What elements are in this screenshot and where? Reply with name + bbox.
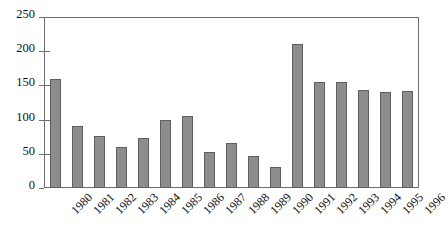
y-axis-tick-label: 50 (23, 145, 36, 158)
x-axis-tick-label: 1989 (268, 191, 293, 216)
x-axis-tick-label: 1991 (312, 191, 337, 216)
x-axis-tick-label: 1990 (290, 191, 315, 216)
y-axis-tick-label: 200 (16, 42, 35, 55)
x-axis-tick-label: 1996 (422, 191, 447, 216)
y-axis-tick-label: 100 (16, 111, 35, 124)
bar (182, 116, 193, 188)
x-axis-tick-label: 1988 (246, 191, 271, 216)
x-axis-tick-label: 1982 (113, 191, 138, 216)
bar (50, 79, 61, 188)
y-axis: 050100150200250 (0, 17, 44, 189)
bar (116, 147, 127, 188)
bar (380, 92, 391, 188)
x-axis: 1980198119821983198419851986198719881989… (44, 189, 419, 231)
bar (204, 152, 215, 188)
x-axis-tick-label: 1992 (334, 191, 359, 216)
x-axis-tick-label: 1983 (135, 191, 160, 216)
bar (248, 156, 259, 188)
bar (314, 82, 325, 188)
bars-layer (44, 17, 419, 188)
bar (138, 138, 149, 188)
x-axis-tick-label: 1987 (223, 191, 248, 216)
x-axis-tick-label: 1984 (157, 191, 182, 216)
bar (402, 91, 413, 188)
x-axis-tick-label: 1985 (179, 191, 204, 216)
bar (160, 120, 171, 188)
bar (94, 136, 105, 188)
x-axis-tick-label: 1981 (91, 191, 116, 216)
x-axis-tick-label: 1986 (201, 191, 226, 216)
bar (358, 90, 369, 188)
bar (72, 126, 83, 188)
x-axis-tick-label: 1980 (69, 191, 94, 216)
y-axis-tick-label: 150 (16, 76, 35, 89)
bar (270, 167, 281, 188)
x-axis-tick-label: 1995 (400, 191, 425, 216)
bar (226, 143, 237, 188)
x-axis-tick-label: 1994 (378, 191, 403, 216)
bar (292, 44, 303, 188)
x-axis-tick-label: 1993 (356, 191, 381, 216)
bar (336, 82, 347, 188)
y-axis-tick-label: 0 (29, 179, 35, 192)
y-axis-tick-label: 250 (16, 8, 35, 21)
